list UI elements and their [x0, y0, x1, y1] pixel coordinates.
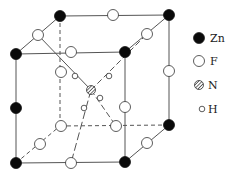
f-atom [66, 47, 77, 58]
h-atom [97, 95, 103, 101]
f-atom [108, 10, 119, 21]
crystal-structure-diagram: Zn F N H [0, 0, 232, 173]
n-atom [87, 86, 96, 95]
f-atom [66, 158, 77, 169]
zn-atom [11, 103, 22, 114]
zn-atom [11, 49, 22, 60]
f-atom [120, 102, 131, 113]
zn-legend-icon [194, 33, 205, 44]
fluorine-atoms [33, 10, 175, 169]
legend-label-h: H [208, 103, 218, 116]
f-atom [56, 67, 67, 78]
zn-atom [164, 120, 175, 131]
f-atom [142, 138, 153, 149]
legend-label-zn: Zn [210, 32, 225, 45]
f-atom [56, 121, 67, 132]
f-atom [35, 139, 46, 150]
h-atom [81, 105, 87, 111]
h-atom [106, 73, 112, 79]
f-atom [111, 121, 122, 132]
legend-item-f: F [194, 55, 219, 68]
zn-atom [120, 157, 131, 168]
h-atom [72, 73, 78, 79]
f-atom [142, 29, 153, 40]
f-atom [164, 66, 175, 77]
h-legend-icon [199, 106, 205, 112]
zn-atom [55, 11, 66, 22]
legend-label-f: F [210, 55, 218, 68]
n-legend-icon [195, 81, 204, 90]
zn-atom [164, 10, 175, 21]
zn-atom [11, 158, 22, 169]
f-legend-icon [194, 56, 205, 67]
nitrogen-atom [87, 86, 96, 95]
legend-item-n: N [195, 79, 219, 92]
f-atom [33, 30, 44, 41]
legend: Zn F N H [194, 32, 225, 116]
legend-item-zn: Zn [194, 32, 225, 45]
zn-atom [120, 47, 131, 58]
legend-item-h: H [199, 103, 217, 116]
legend-label-n: N [208, 79, 218, 92]
